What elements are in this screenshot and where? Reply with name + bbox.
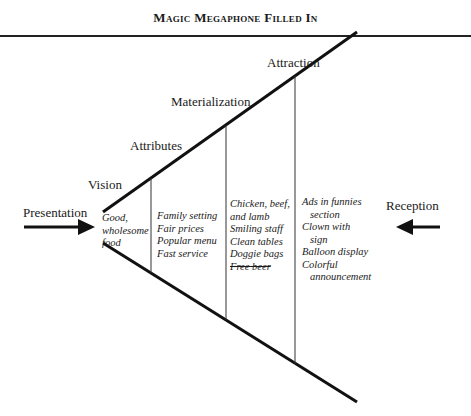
list-item: Good, [102,212,149,225]
column-materialization: Chicken, beef, and lamb Smiling staff Cl… [230,198,290,273]
stage-label-materialization: Materialization [171,94,250,110]
list-item: Smiling staff [230,223,290,236]
stage-label-attraction: Attraction [267,55,320,71]
presentation-label: Presentation [23,205,87,221]
stage-label-vision: Vision [88,177,122,193]
column-attraction: Ads in funnies section Clown with sign B… [302,196,371,284]
list-item: wholesome [102,225,149,238]
presentation-arrow-icon [24,219,95,235]
stage-label-attributes: Attributes [130,138,182,154]
reception-label: Reception [386,198,439,214]
list-item: Balloon display [302,246,371,259]
reception-arrow-icon [396,219,440,235]
list-item: food [102,237,149,250]
column-vision: Good, wholesome food [102,212,149,250]
list-item: announcement [302,271,371,284]
list-item: section [302,209,371,222]
list-item: Popular menu [157,235,217,248]
column-attributes: Family setting Fair prices Popular menu … [157,210,217,260]
list-item-struck: Free beer [230,261,290,274]
list-item: Doggie bags [230,248,290,261]
list-item: Ads in funnies [302,196,371,209]
list-item: Fast service [157,248,217,261]
list-item: Family setting [157,210,217,223]
list-item: Fair prices [157,223,217,236]
list-item: Clean tables [230,236,290,249]
list-item: sign [302,234,371,247]
list-item: and lamb [230,211,290,224]
list-item: Clown with [302,221,371,234]
list-item: Colorful [302,259,371,272]
list-item: Chicken, beef, [230,198,290,211]
